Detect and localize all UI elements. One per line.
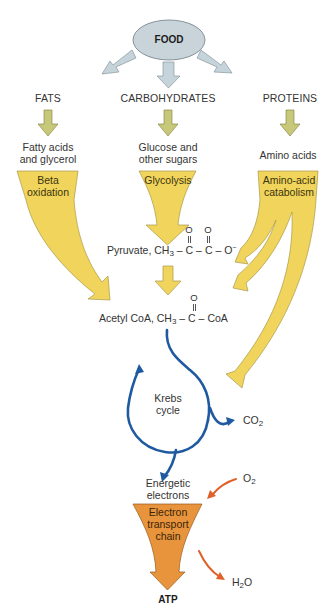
product-fatty-acids: Fatty acids and glycerol [10,141,86,165]
category-carbohydrates: CARBOHYDRATES [118,92,218,104]
pyruvate-formula: Pyruvate, CH3 – C – C – O− [107,244,236,256]
co2-label: CO2 [243,414,263,426]
acetyl-coa-formula: Acetyl CoA, CH3 – C – CoA [99,312,228,324]
energetic-electrons-label: Energetic electrons [138,477,198,501]
pyruvate-double-bond-2 [207,236,210,243]
krebs-cycle-label: Krebs cycle [144,392,192,416]
pyruvate-double-bond-1 [188,236,191,243]
food-to-fats-arrow [102,50,136,74]
process-glycolysis: Glycolysis [140,174,196,186]
amino-acid-catabolism-flow [226,171,318,388]
o2-label: O2 [243,472,256,484]
h2o-label: H2O [232,576,252,588]
krebs-arrowhead-top [135,364,144,374]
co2-release-line [210,408,229,424]
pyruvate-oxygen-2: O [204,225,212,235]
food-to-proteins-arrow [197,50,232,73]
food-to-carbs-arrow [157,62,180,88]
atp-label: ATP [146,594,190,606]
category-proteins: PROTEINS [258,92,322,104]
co2-arrowhead [226,417,235,426]
acetyl-double-bond [193,304,196,311]
pyruvate-to-acetylcoa-arrow [155,266,181,295]
h2o-output-line [199,551,220,577]
process-amino-acid-catabolism: Amino-acid catabolism [258,174,320,198]
product-glucose: Glucose and other sugars [128,141,208,165]
fats-down-arrow [38,110,58,136]
food-label: FOOD [147,34,191,46]
electron-transport-chain-label: Electron transport chain [140,506,196,542]
product-amino-acids: Amino acids [252,149,324,161]
o2-input-line [213,479,236,494]
category-fats: FATS [18,92,78,104]
carbs-down-arrow [158,110,178,136]
pyruvate-oxygen-1: O [185,225,193,235]
proteins-down-arrow [280,110,300,136]
krebs-to-electrons-line [164,450,176,477]
acetyl-oxygen: O [190,293,198,303]
process-beta-oxidation: Beta oxidation [20,174,76,198]
